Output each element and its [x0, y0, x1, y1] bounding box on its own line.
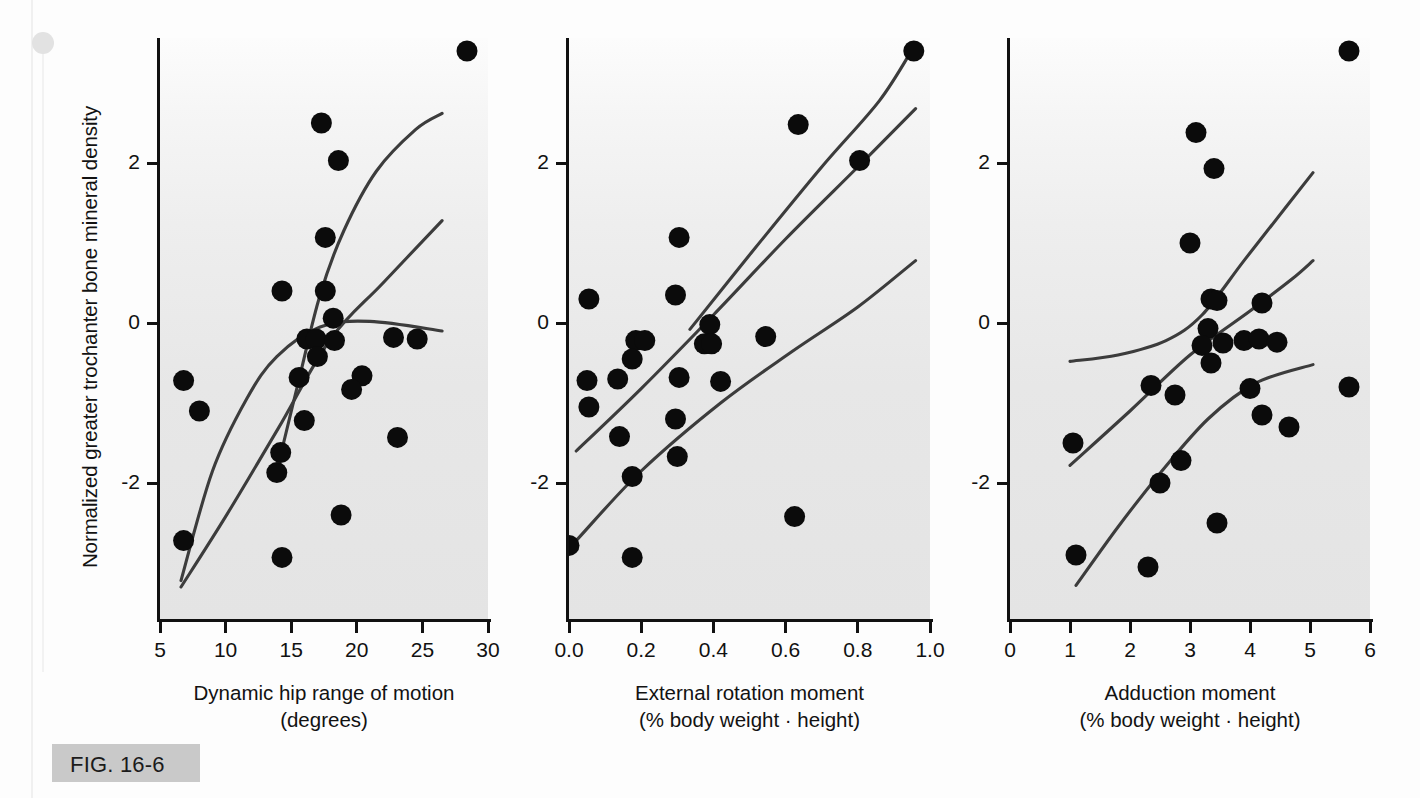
data-point [1186, 122, 1207, 143]
data-point [1249, 329, 1270, 350]
data-point [1171, 450, 1192, 471]
data-point [1252, 293, 1273, 314]
data-point [1150, 473, 1171, 494]
data-point [1207, 513, 1228, 534]
data-point [1339, 377, 1360, 398]
data-point [1279, 417, 1300, 438]
data-point [1267, 332, 1288, 353]
data-point [1252, 405, 1273, 426]
data-point [1240, 378, 1261, 399]
data-point [1201, 353, 1222, 374]
data-point [1207, 290, 1228, 311]
data-point [1138, 557, 1159, 578]
data-point [1339, 41, 1360, 62]
data-point [1204, 158, 1225, 179]
data-point [1066, 545, 1087, 566]
data-point [1180, 233, 1201, 254]
data-point [1063, 433, 1084, 454]
data-point [1213, 333, 1234, 354]
data-point [1141, 375, 1162, 396]
panel-adduction-moment: 20-20123456Adduction moment(% body weigh… [0, 0, 1420, 798]
plot-overlay [0, 0, 1420, 798]
data-point [1165, 385, 1186, 406]
fit-curve-lower-confidence-band [1076, 365, 1313, 586]
figure-caption-label: FIG. 16-6 [70, 752, 165, 778]
figure-root: Normalized greater trochanter bone miner… [0, 0, 1420, 798]
